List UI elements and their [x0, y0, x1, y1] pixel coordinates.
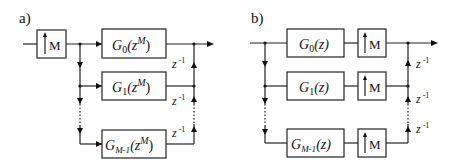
- delay-label: z-1: [415, 121, 429, 136]
- arrow-icon: [96, 41, 102, 47]
- delay-label: z-1: [415, 91, 429, 106]
- upsampler-label: M: [369, 80, 381, 95]
- arrow-up-icon: [191, 62, 197, 68]
- diagram-a: a) M G0(zM) G1(zM) GM-1(zM): [19, 10, 214, 158]
- diagram-b-label: b): [251, 10, 264, 27]
- upsampler-label: M: [369, 137, 381, 152]
- arrow-icon: [96, 83, 102, 89]
- arrow-down-icon: [77, 98, 83, 104]
- delay-label: z-1: [171, 56, 185, 71]
- output-arrow-icon: [431, 40, 438, 46]
- filter-g0-label: G0(z): [299, 37, 329, 54]
- arrow-up-icon: [191, 126, 197, 132]
- arrow-up-icon: [405, 60, 411, 66]
- upsampler-label: M: [49, 38, 61, 53]
- upsampler-label: M: [369, 37, 381, 52]
- arrow-down-icon: [262, 98, 268, 104]
- arrow-up-icon: [191, 96, 197, 102]
- filter-g1-label: G1(z): [299, 80, 329, 97]
- delay-label: z-1: [171, 93, 185, 108]
- arrow-icon: [96, 141, 102, 147]
- arrow-down-icon: [262, 61, 268, 67]
- arrow-up-icon: [405, 126, 411, 132]
- arrow-down-icon: [77, 62, 83, 68]
- output-arrow-icon: [207, 41, 214, 47]
- polyphase-diagrams: a) M G0(zM) G1(zM) GM-1(zM): [0, 0, 457, 168]
- arrow-up-icon: [405, 96, 411, 102]
- diagram-b: b) G0(z) G1(z) GM-1(z) M M: [250, 10, 438, 157]
- delay-label: z-1: [415, 56, 429, 71]
- delay-label: z-1: [171, 125, 185, 140]
- filter-g0-label: G0(zM): [112, 35, 151, 55]
- arrow-down-icon: [262, 129, 268, 135]
- arrow-down-icon: [77, 128, 83, 134]
- filter-g1-label: G1(zM): [112, 77, 151, 97]
- diagram-a-label: a): [19, 10, 31, 27]
